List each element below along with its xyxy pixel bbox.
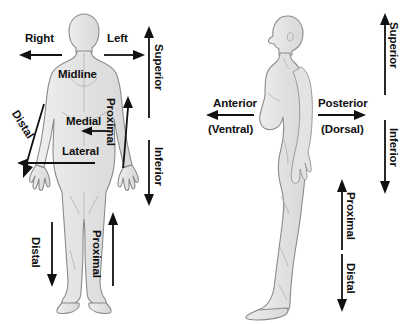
arrow-lateral bbox=[17, 159, 95, 168]
arrow-distal-leg bbox=[47, 222, 57, 287]
label-proximal-leg-lateral: Proximal bbox=[345, 192, 357, 240]
anatomy-diagram: Right Left Midline Medial Lateral Superi… bbox=[0, 0, 414, 324]
arrow-distal-arm bbox=[23, 104, 44, 178]
label-superior-anterior: Superior bbox=[153, 44, 165, 91]
arrow-anterior bbox=[206, 110, 254, 120]
arrow-proximal-leg bbox=[108, 212, 118, 286]
label-medial: Medial bbox=[66, 115, 101, 127]
label-posterior: Posterior bbox=[318, 97, 368, 109]
arrows-layer bbox=[17, 13, 390, 312]
label-lateral: Lateral bbox=[62, 145, 99, 157]
label-proximal-arm: Proximal bbox=[105, 98, 117, 146]
arrow-posterior bbox=[318, 110, 366, 120]
arrow-right-label bbox=[19, 50, 62, 60]
label-posterior-sub: (Dorsal) bbox=[321, 123, 364, 135]
label-inferior-anterior: Inferior bbox=[153, 147, 165, 186]
label-distal-arm: Distal bbox=[10, 108, 37, 140]
label-proximal-leg: Proximal bbox=[91, 230, 103, 278]
arrow-proximal-arm bbox=[123, 96, 133, 168]
anterior-body-figure bbox=[30, 14, 139, 314]
label-superior-lateral: Superior bbox=[388, 22, 400, 69]
label-anterior: Anterior bbox=[213, 97, 257, 109]
arrow-left-label bbox=[104, 50, 145, 60]
label-distal-leg-lateral: Distal bbox=[345, 263, 357, 294]
label-midline: Midline bbox=[58, 68, 97, 80]
lateral-body-figure bbox=[246, 16, 313, 320]
label-distal-leg: Distal bbox=[30, 237, 42, 268]
label-left: Left bbox=[107, 32, 128, 44]
label-right: Right bbox=[25, 32, 54, 44]
label-inferior-lateral: Inferior bbox=[388, 128, 400, 167]
label-anterior-sub: (Ventral) bbox=[208, 123, 253, 135]
